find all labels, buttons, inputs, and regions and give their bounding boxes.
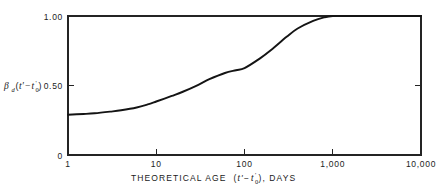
x-axis-title: THEORETICAL AGE ( t' − t 0 ' ), DAYS xyxy=(131,171,296,185)
x-axis-title-t-prime-mark: ' xyxy=(255,171,256,178)
y-tick-label-top: 1.00 xyxy=(44,12,63,22)
y-tick-label-zero: 0 xyxy=(58,151,63,161)
x-axis-title-lead: THEORETICAL AGE xyxy=(131,173,227,183)
y-axis-beta-symbol: β xyxy=(3,81,9,91)
y-axis-minus: − xyxy=(25,81,30,91)
x-tick-label-10000: 10,000 xyxy=(406,159,436,169)
y-tick-label-mid: 0.50 xyxy=(44,81,63,91)
x-axis-title-t-base: t xyxy=(251,173,254,183)
x-tick-label-10: 10 xyxy=(151,159,162,169)
chart-svg: 1.00 0.50 0 β d ( t' − t 0 ' ) 1 10 100 … xyxy=(0,0,438,186)
chart-figure: 1.00 0.50 0 β d ( t' − t 0 ' ) 1 10 100 … xyxy=(0,0,438,186)
x-axis-title-close: ), DAYS xyxy=(259,173,297,183)
y-axis-t-prime-mark: ' xyxy=(36,79,37,86)
x-axis-title-minus: − xyxy=(244,173,250,183)
x-tick-label-1000: 1,000 xyxy=(320,159,345,169)
y-axis-close-paren: ) xyxy=(39,81,42,91)
x-axis-title-t-prime: t' xyxy=(238,173,244,183)
y-axis-t-base: t xyxy=(32,81,35,91)
x-tick-label-100: 100 xyxy=(236,159,252,169)
x-tick-label-1: 1 xyxy=(65,159,70,169)
